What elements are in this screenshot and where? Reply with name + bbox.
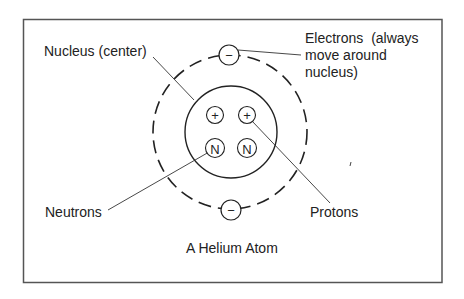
neutrons-label: Neutrons: [45, 204, 102, 220]
electron-top: −: [219, 45, 239, 65]
proton-left: +: [207, 107, 224, 124]
neutron-symbol: N: [210, 142, 219, 157]
electrons-label-line-1: Electrons (always: [305, 30, 419, 46]
proton-symbol: +: [211, 108, 219, 123]
protons-label: Protons: [310, 204, 358, 220]
electron-bottom: −: [221, 200, 241, 220]
proton-symbol: +: [243, 108, 251, 123]
electron-orbit: [153, 55, 307, 209]
stray-mark: [350, 162, 351, 166]
diagram-caption: A Helium Atom: [186, 240, 278, 256]
neutron-right: N: [238, 139, 257, 158]
neutron-left: N: [206, 139, 225, 158]
protons-leader-line: [252, 121, 330, 203]
nucleus-leader-line: [153, 57, 194, 100]
neutron-symbol: N: [242, 142, 251, 157]
nucleus-circle: [185, 86, 277, 178]
electrons-label-line-3: nucleus): [305, 64, 358, 80]
proton-right: +: [239, 107, 256, 124]
nucleus-label: Nucleus (center): [44, 43, 147, 59]
electron-symbol: −: [227, 203, 235, 218]
electrons-leader-line: [238, 50, 301, 55]
electron-symbol: −: [225, 48, 233, 63]
electrons-label-line-2: move around: [305, 47, 387, 63]
helium-atom-diagram: − − + + N N Nucleus (center) Electrons (…: [0, 0, 464, 299]
